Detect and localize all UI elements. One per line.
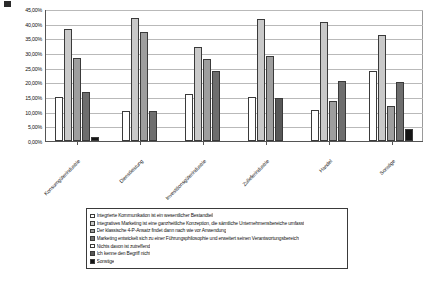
- bar: [248, 97, 256, 141]
- legend-swatch-icon: [90, 229, 95, 234]
- bar-group: [46, 10, 109, 141]
- bar: [91, 137, 99, 141]
- x-axis-label: Sonstige: [378, 158, 396, 176]
- legend-swatch-icon: [90, 259, 95, 264]
- legend-swatch-icon: [90, 221, 95, 226]
- x-axis-tick: [392, 141, 393, 145]
- legend-label: Sonstige: [97, 259, 115, 264]
- bar: [275, 98, 283, 141]
- y-axis-tick-label: 10,00%: [25, 110, 42, 116]
- legend-label: Der klassische 4-P-Ansatz findet dann na…: [97, 228, 227, 233]
- bar: [257, 19, 265, 141]
- y-axis-tick-label: 30,00%: [25, 51, 42, 57]
- legend-item: Marketing entwickelt sich zu einer Führu…: [90, 235, 344, 243]
- x-axis-label-cell: Zulieferindustrie: [234, 156, 297, 202]
- legend-swatch-icon: [90, 251, 95, 256]
- legend-label: Integratives Marketing ist eine ganzheit…: [97, 221, 305, 226]
- y-axis: 45,00%40,00%35,00%30,00%25,00%20,00%15,0…: [0, 10, 44, 142]
- legend-label: Marketing entwickelt sich zu einer Führu…: [97, 236, 299, 241]
- bar: [194, 47, 202, 141]
- legend-label: Integrierte Kommunikation ist ein wesent…: [97, 213, 214, 218]
- bar: [55, 97, 63, 141]
- bar-chart: 45,00%40,00%35,00%30,00%25,00%20,00%15,0…: [0, 10, 431, 155]
- plot-area: [45, 10, 423, 142]
- x-axis-label: Handel: [317, 158, 332, 173]
- x-axis-tick: [266, 141, 267, 145]
- legend-label: Nichts davon ist zutreffend: [97, 244, 151, 249]
- legend-swatch-icon: [90, 244, 95, 249]
- x-axis-label: Dienstleistung: [117, 158, 143, 184]
- bar-group: [360, 10, 423, 141]
- legend-item: Sonstige: [90, 258, 344, 266]
- bar: [185, 94, 193, 141]
- x-axis-label-cell: Konsumgüterindustrie: [45, 156, 108, 202]
- legend-item: Ich kenne den Begriff nicht: [90, 250, 344, 258]
- y-axis-tick-label: 15,00%: [25, 95, 42, 101]
- x-axis-label: Konsumgüterindustrie: [42, 158, 81, 197]
- legend-swatch-icon: [90, 236, 95, 241]
- x-axis-label-cell: Dienstleistung: [108, 156, 171, 202]
- bar: [149, 111, 157, 142]
- y-axis-tick-label: 0,00%: [28, 139, 42, 145]
- bar: [387, 106, 395, 141]
- x-axis-labels: KonsumgüterindustrieDienstleistungInvest…: [45, 156, 423, 202]
- x-axis-tick: [203, 141, 204, 145]
- bar-group: [172, 10, 235, 141]
- x-axis-label-cell: Sonstige: [360, 156, 423, 202]
- bar-group: [109, 10, 172, 141]
- x-axis-tick: [77, 141, 78, 145]
- bar: [64, 29, 72, 141]
- bar: [320, 22, 328, 141]
- y-axis-tick-label: 35,00%: [25, 36, 42, 42]
- legend-swatch-icon: [90, 214, 95, 219]
- bar-groups: [46, 10, 423, 141]
- bar: [82, 92, 90, 141]
- bar: [405, 129, 413, 141]
- x-axis-label-cell: Investitionsgüterindustrie: [171, 156, 234, 202]
- y-axis-tick-label: 45,00%: [25, 7, 42, 13]
- x-axis-label: Investitionsgüterindustrie: [164, 158, 207, 201]
- bar: [203, 59, 211, 141]
- bar: [266, 56, 274, 141]
- legend-item: Integratives Marketing ist eine ganzheit…: [90, 220, 344, 228]
- x-axis-label: Zulieferindustrie: [241, 158, 270, 187]
- legend-item: Nichts davon ist zutreffend: [90, 242, 344, 250]
- y-axis-tick-label: 20,00%: [25, 80, 42, 86]
- bar: [378, 35, 386, 141]
- y-axis-tick-label: 25,00%: [25, 66, 42, 72]
- bar: [140, 32, 148, 141]
- y-axis-tick-label: 5,00%: [28, 124, 42, 130]
- bar: [212, 71, 220, 141]
- x-axis-tick: [140, 141, 141, 145]
- bar: [311, 110, 319, 141]
- bar-group: [234, 10, 297, 141]
- bar: [396, 82, 404, 141]
- y-axis-tick-label: 40,00%: [25, 22, 42, 28]
- bar: [73, 58, 81, 141]
- bar: [329, 101, 337, 141]
- corner-marker: [4, 1, 11, 7]
- bar: [122, 111, 130, 142]
- legend-item: Integrierte Kommunikation ist ein wesent…: [90, 212, 344, 220]
- chart-legend: Integrierte Kommunikation ist ein wesent…: [86, 208, 348, 269]
- bar: [338, 81, 346, 141]
- x-axis-tick: [329, 141, 330, 145]
- bar: [131, 18, 139, 141]
- bar: [369, 71, 377, 141]
- x-axis-label-cell: Handel: [297, 156, 360, 202]
- legend-label: Ich kenne den Begriff nicht: [97, 251, 151, 256]
- legend-item: Der klassische 4-P-Ansatz findet dann na…: [90, 227, 344, 235]
- bar-group: [297, 10, 360, 141]
